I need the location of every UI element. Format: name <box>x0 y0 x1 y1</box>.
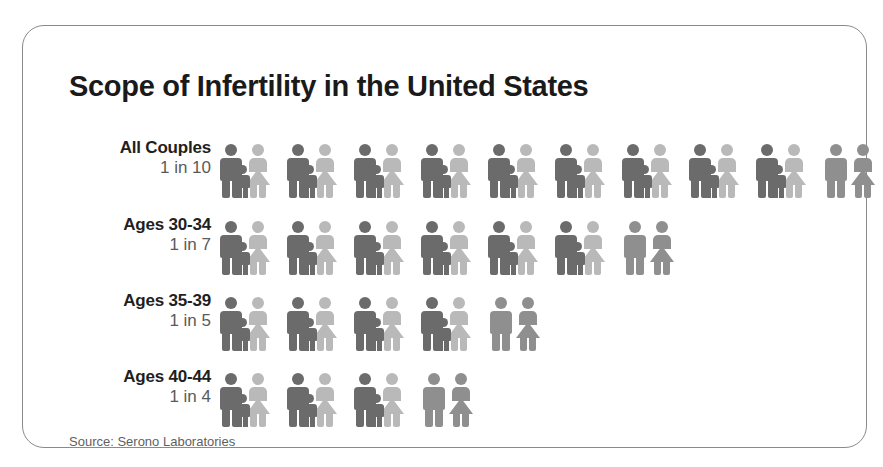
child-icon <box>503 165 518 198</box>
child-icon <box>436 318 451 351</box>
man-icon <box>825 144 847 198</box>
child-icon <box>369 242 384 275</box>
man-icon <box>423 373 445 427</box>
family-unit <box>287 136 345 198</box>
family-unit <box>689 136 747 198</box>
pictogram-row: Ages 40-441 in 4 <box>63 367 863 429</box>
family-unit <box>354 289 412 351</box>
child-icon <box>235 165 250 198</box>
woman-icon <box>851 144 875 198</box>
pictogram-row: Ages 35-391 in 5 <box>63 291 863 353</box>
child-icon <box>302 394 317 427</box>
family-unit <box>220 213 278 275</box>
woman-icon <box>516 297 540 351</box>
child-icon <box>235 318 250 351</box>
childless-couple-unit <box>823 136 881 198</box>
row-ratio: 1 in 7 <box>63 235 211 255</box>
family-unit <box>555 136 613 198</box>
row-ratio: 1 in 5 <box>63 311 211 331</box>
row-ratio: 1 in 10 <box>63 158 211 178</box>
child-icon <box>436 165 451 198</box>
child-icon <box>302 165 317 198</box>
child-icon <box>570 165 585 198</box>
row-label: Ages 35-39 <box>63 291 211 311</box>
childless-couple-unit <box>488 289 546 351</box>
family-unit <box>622 136 680 198</box>
family-unit <box>220 289 278 351</box>
man-icon <box>624 221 646 275</box>
row-labels: Ages 35-391 in 5 <box>63 291 211 331</box>
child-icon <box>369 318 384 351</box>
woman-icon <box>650 221 674 275</box>
family-unit <box>354 365 412 427</box>
family-unit <box>354 213 412 275</box>
child-icon <box>704 165 719 198</box>
family-unit <box>555 213 613 275</box>
family-unit <box>354 136 412 198</box>
family-unit <box>287 365 345 427</box>
child-icon <box>436 242 451 275</box>
row-ratio: 1 in 4 <box>63 387 211 407</box>
family-unit <box>488 136 546 198</box>
child-icon <box>302 318 317 351</box>
row-label: Ages 30-34 <box>63 215 211 235</box>
source-caption: Source: Serono Laboratories <box>69 434 235 449</box>
man-icon <box>490 297 512 351</box>
child-icon <box>637 165 652 198</box>
family-unit <box>421 289 479 351</box>
row-labels: All Couples1 in 10 <box>63 138 211 178</box>
row-label: Ages 40-44 <box>63 367 211 387</box>
child-icon <box>503 242 518 275</box>
child-icon <box>570 242 585 275</box>
row-labels: Ages 30-341 in 7 <box>63 215 211 255</box>
woman-icon <box>449 373 473 427</box>
family-unit <box>287 213 345 275</box>
child-icon <box>302 242 317 275</box>
family-unit <box>220 365 278 427</box>
infographic-frame: Scope of Infertility in the United State… <box>22 25 867 448</box>
family-unit <box>756 136 814 198</box>
family-unit <box>421 136 479 198</box>
row-labels: Ages 40-441 in 4 <box>63 367 211 407</box>
family-unit <box>220 136 278 198</box>
childless-couple-unit <box>421 365 479 427</box>
family-unit <box>287 289 345 351</box>
child-icon <box>369 165 384 198</box>
pictogram-row: All Couples1 in 10 <box>63 138 863 200</box>
child-icon <box>369 394 384 427</box>
page-title: Scope of Infertility in the United State… <box>69 70 588 103</box>
child-icon <box>771 165 786 198</box>
pictogram-row: Ages 30-341 in 7 <box>63 215 863 277</box>
row-label: All Couples <box>63 138 211 158</box>
childless-couple-unit <box>622 213 680 275</box>
family-unit <box>421 213 479 275</box>
child-icon <box>235 242 250 275</box>
child-icon <box>235 394 250 427</box>
family-unit <box>488 213 546 275</box>
